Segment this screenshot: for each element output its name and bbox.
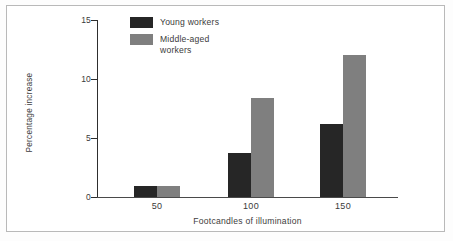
y-tick-label-10-wrap: 10 [65,74,91,85]
bar-middle-aged-workers-150 [343,55,366,197]
figure: 15 10 5 0 Percentage increase 50 100 150… [0,0,453,241]
y-tick-label-15-wrap: 15 [65,15,91,26]
y-axis-line [97,20,98,198]
legend-item-middle-aged-workers: Middle-aged workers [130,34,280,55]
x-tick-label-50: 50 [127,201,187,211]
y-tick-10 [91,79,98,80]
y-tick-5 [91,138,98,139]
legend-label-middle-aged-workers: Middle-aged workers [160,34,210,55]
x-tick-label-150: 150 [313,201,373,211]
bar-young-workers-150 [320,124,343,197]
bar-middle-aged-workers-50 [157,186,180,197]
y-tick-label-0: 0 [71,192,91,202]
legend-item-young-workers: Young workers [130,17,280,28]
y-tick-label-5: 5 [71,133,91,143]
bar-young-workers-50 [134,186,157,197]
bar-young-workers-100 [228,153,251,197]
y-tick-label-10: 10 [71,74,91,84]
x-axis-title: Footcandles of illumination [97,216,398,226]
y-tick-label-15: 15 [71,15,91,25]
y-tick-label-0-wrap: 0 [65,192,91,203]
legend: Young workers Middle-aged workers [130,17,280,61]
bar-middle-aged-workers-100 [251,98,274,197]
y-tick-15 [91,20,98,21]
y-tick-label-5-wrap: 5 [65,133,91,144]
legend-label-young-workers: Young workers [160,17,219,28]
legend-swatch-middle-aged-workers [130,34,153,45]
legend-swatch-young-workers [130,17,153,28]
x-tick-label-100: 100 [221,201,281,211]
y-axis-title: Percentage increase [25,53,34,173]
